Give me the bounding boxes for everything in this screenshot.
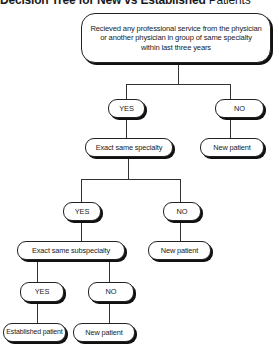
new-patient-node-1: New patient <box>200 138 264 157</box>
level1-no-node: NO <box>215 99 264 118</box>
connector <box>109 302 110 323</box>
connector <box>180 179 181 202</box>
exact-same-subspecialty-node: Exact same subspecialty <box>17 241 125 260</box>
level3-yes-node: YES <box>20 282 64 302</box>
connector <box>37 302 38 323</box>
connector <box>37 260 38 282</box>
diagram-title: Decision Tree for New vs Established Pat… <box>0 0 250 7</box>
connector <box>128 157 129 179</box>
root-question-node: Recieved any professional service from t… <box>81 13 271 63</box>
level2-no-node: NO <box>163 202 201 221</box>
level2-yes-node: YES <box>63 202 101 221</box>
connector <box>126 84 127 99</box>
connector <box>230 118 231 138</box>
exact-same-specialty-node: Exact same specialty <box>85 138 173 157</box>
connector <box>180 221 181 241</box>
level3-no-node: NO <box>88 282 134 302</box>
title-light: Patients <box>209 0 251 7</box>
connector <box>81 179 82 202</box>
connector <box>109 260 110 282</box>
new-patient-node-2: New patient <box>148 241 211 260</box>
connector <box>126 84 231 85</box>
new-patient-node-3: New patient <box>73 323 135 342</box>
connector <box>178 63 179 84</box>
level1-yes-node: YES <box>108 99 145 118</box>
title-bold: Decision Tree for New vs Established <box>0 0 209 7</box>
connector <box>81 221 82 241</box>
established-patient-node: Established patient <box>3 323 66 342</box>
connector <box>81 179 181 180</box>
connector <box>126 118 127 138</box>
connector <box>230 84 231 99</box>
